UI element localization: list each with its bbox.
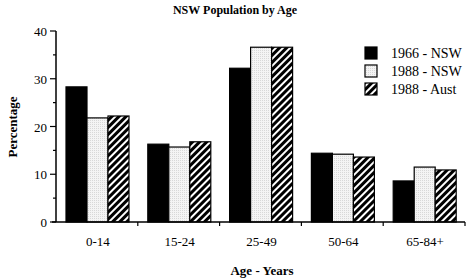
y-tick-label: 10 <box>34 167 47 182</box>
bar <box>251 47 272 222</box>
bar <box>148 144 169 222</box>
x-axis-title: Age - Years <box>230 263 293 278</box>
bar <box>393 181 414 222</box>
y-tick-label: 0 <box>41 215 48 230</box>
y-axis-title: Percentage <box>5 96 20 157</box>
bar <box>272 47 293 222</box>
chart-title: NSW Population by Age <box>173 3 298 17</box>
bar <box>169 147 190 222</box>
legend-swatch <box>365 83 377 95</box>
legend: 1966 - NSW1988 - NSW1988 - Aust <box>365 46 463 97</box>
bar <box>311 153 332 222</box>
bar <box>87 118 108 222</box>
bar <box>190 142 211 222</box>
x-category-label: 15-24 <box>165 234 196 249</box>
x-category-label: 65-84+ <box>406 234 444 249</box>
bar <box>332 154 353 222</box>
x-axis: 0-1415-2425-4950-6465-84+ <box>52 222 465 249</box>
x-category-label: 0-14 <box>86 234 110 249</box>
y-tick-label: 30 <box>34 72 47 87</box>
y-tick-label: 40 <box>34 24 47 39</box>
legend-label: 1966 - NSW <box>391 46 463 61</box>
bar <box>66 87 87 222</box>
y-tick-label: 20 <box>34 120 47 135</box>
x-category-label: 25-49 <box>246 234 276 249</box>
legend-swatch <box>365 47 377 59</box>
y-axis: 010203040 <box>34 24 56 230</box>
bar <box>108 116 129 222</box>
bar <box>414 167 435 222</box>
legend-label: 1988 - NSW <box>391 64 463 79</box>
bar-chart: NSW Population by Age 010203040 0-1415-2… <box>0 0 471 279</box>
x-category-label: 50-64 <box>328 234 359 249</box>
bar <box>435 170 456 222</box>
legend-label: 1988 - Aust <box>391 82 456 97</box>
bar <box>353 157 374 222</box>
legend-swatch <box>365 65 377 77</box>
bar <box>230 68 251 222</box>
